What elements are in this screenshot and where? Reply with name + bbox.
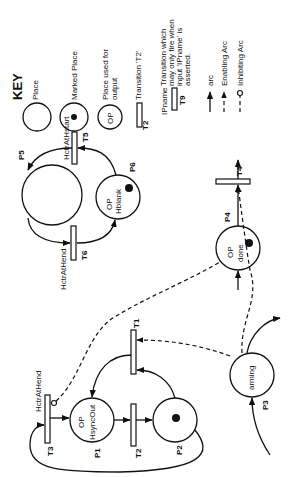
transition-t6-name: T6 [80,250,89,260]
place-p4-name: P4 [223,212,232,222]
transition-t6 [71,226,76,260]
place-p4-op: OP [226,246,235,258]
enabling-arc-p3-t1 [137,340,230,356]
hblank-subnet: P5 OP Hblank P6 HctrAtHstart T5 HctrAtHe… [17,116,140,290]
legend-input-transition-icon [172,88,177,110]
place-p3-text: arming [247,366,256,390]
place-p4-text: done [236,244,245,262]
arc-out-of-p3 [247,318,280,353]
transition-t5-name: T5 [81,132,90,142]
place-p5 [22,165,82,225]
arc-t6-p6 [77,220,115,243]
inhibitor-circle-icon [238,91,243,96]
legend-output-place-label-1: Place used for [101,49,110,100]
place-p6-text: Hblank [114,188,123,214]
inhibiting-arc-p4-t3 [56,262,220,401]
place-p3-name: P3 [261,400,270,410]
transition-t5-input: HctrAtHstart [62,116,71,160]
legend-title: KEY [10,73,25,100]
arc-p6-t5 [78,148,116,175]
transition-t5 [72,132,77,164]
arc-t1-p1 [92,355,131,397]
legend-arc-label: arc [206,75,215,86]
transition-t4 [216,179,250,184]
arc-p2-t1 [137,370,175,398]
transition-t4-name: T4 [235,166,244,176]
legend-place-label: Place [31,79,40,100]
transition-t3-input: HctrAtHend [34,371,43,412]
inhibitor-circle-icon [52,401,57,406]
legend-output-place-op: OP [106,112,115,124]
legend-place-icon [23,103,51,131]
transition-t3 [45,395,50,443]
transition-t1-name: T1 [132,318,141,328]
token-icon [71,114,77,120]
place-p1-text: HsyncOut [88,404,97,440]
place-p1-op: OP [77,416,86,428]
place-p5-name: P5 [17,150,26,160]
transition-t2 [131,404,136,446]
token-icon [125,184,133,192]
transition-t1 [131,330,136,374]
legend-inhibiting-arc-label: Inhibiting Arc [236,40,245,86]
legend-output-place-label-2: output [110,77,119,100]
legend-transition-name: T2 [141,120,150,130]
place-p1-name: P1 [93,448,102,458]
legend-input-transition-input: IPname [160,87,169,115]
transition-t3-name: T3 [46,446,55,456]
legend-enabling-arc-label: Enabling Arc [220,41,229,86]
legend-input-transition-label-4: asserted. [183,53,192,86]
legend: KEY Place Marked Place OP Place used for… [10,19,245,131]
petri-net-diagram: KEY Place Marked Place OP Place used for… [0,0,307,477]
place-p6-name: P6 [128,162,137,172]
place-p6-op: OP [105,198,114,210]
legend-transition-label: Transition 'T2' [134,50,143,100]
legend-input-transition-name: T9 [178,95,187,105]
legend-marked-place-label: Marked Place [70,51,79,100]
transition-t2-name: T2 [134,448,143,458]
transition-t6-input: HctrAtHend [59,249,68,290]
place-p2-name: P2 [175,445,184,455]
token-icon [172,414,180,422]
